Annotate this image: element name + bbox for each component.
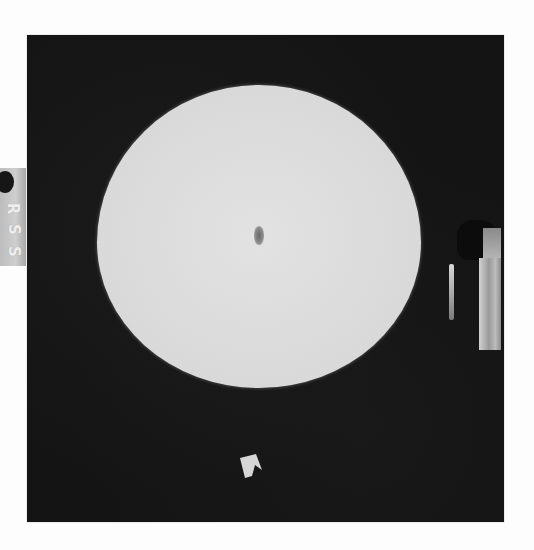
marker-text: R S S [2, 198, 24, 262]
phantom-ellipse [97, 85, 421, 388]
xray-film [27, 35, 504, 522]
thin-rod-marker [449, 264, 454, 320]
arrow-marker-icon [239, 453, 265, 479]
marker-letter-1: R [6, 203, 21, 215]
wide-bar-marker [479, 258, 501, 350]
marker-hole [0, 171, 14, 193]
right-side-objects [437, 220, 504, 350]
side-marker-label: R S S [0, 168, 26, 266]
central-opacity [254, 226, 264, 245]
image-canvas: R S S [0, 0, 534, 550]
marker-letter-2: S [6, 225, 21, 236]
marker-letter-3: S [6, 246, 21, 257]
